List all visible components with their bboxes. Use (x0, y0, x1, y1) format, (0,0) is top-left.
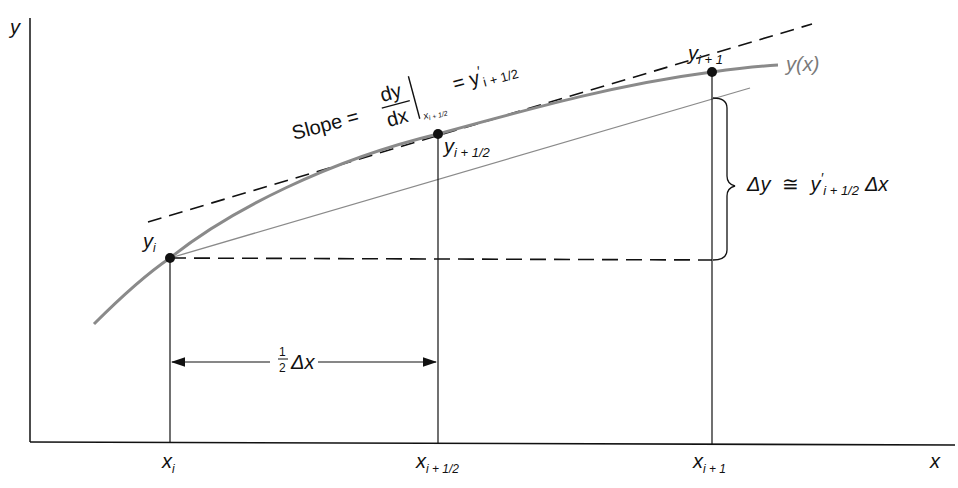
x-axis (30, 442, 955, 445)
x-tick-xi: xi (161, 450, 175, 476)
y-axis-label: y (8, 16, 21, 38)
x-tick-xi-sub: i (172, 462, 175, 476)
delta-y-rhs-tail: Δx (864, 173, 889, 195)
derivative-midpoint-diagram: y x xi xi + 1/2 xi + 1 yi yi + 1/2 yi + … (0, 0, 958, 488)
half-dx-tail: Δx (290, 351, 315, 373)
label-ynext: yi + 1 (686, 42, 723, 67)
delta-y-annotation: Δy ≅ y′i + 1/2Δx (746, 170, 889, 198)
slope-annotation: Slope = dy dx xi + 1/2 = y′i + 1/2 (286, 49, 524, 157)
x-axis-label: x (929, 450, 941, 472)
label-ymid-sub: i + 1/2 (454, 145, 491, 160)
slope-denominator: dx (384, 104, 410, 131)
curve-label: y(x) (784, 53, 819, 75)
point-yi (165, 253, 175, 263)
secant-line (170, 88, 750, 258)
label-ymid: yi + 1/2 (442, 135, 491, 160)
label-yi-sub: i (153, 241, 156, 255)
label-yi: yi (141, 230, 156, 255)
slope-result-sub: i + 1/2 (482, 66, 520, 90)
delta-y-rhs-sub: i + 1/2 (823, 183, 860, 198)
slope-numerator: dy (377, 79, 403, 106)
slope-eval-bar (408, 76, 419, 119)
delta-y-brace (713, 98, 735, 260)
delta-y-approx: ≅ (782, 173, 799, 195)
point-ymid (433, 129, 443, 139)
x-tick-xnext: xi + 1 (692, 450, 726, 476)
x-tick-xmid: xi + 1/2 (415, 450, 459, 476)
half-dx-num: 1 (279, 345, 286, 359)
half-dx-annotation: 1 2 Δx (278, 345, 315, 375)
slope-prefix: Slope = (289, 105, 361, 144)
delta-y-lhs: Δy (746, 173, 771, 195)
x-tick-xnext-sub: i + 1 (703, 462, 726, 476)
x-tick-xmid-sub: i + 1/2 (426, 462, 459, 476)
curve-y-of-x (94, 65, 778, 324)
slope-result: = y′i + 1/2 (449, 53, 520, 97)
slope-eval-sub: xi + 1/2 (421, 105, 449, 123)
half-dx-den: 2 (279, 361, 286, 375)
slope-eval-sub-sub: i + 1/2 (428, 109, 449, 121)
point-ynext (707, 67, 717, 77)
horizontal-dashed-line (170, 258, 712, 260)
label-ynext-sub: i + 1 (698, 52, 723, 67)
